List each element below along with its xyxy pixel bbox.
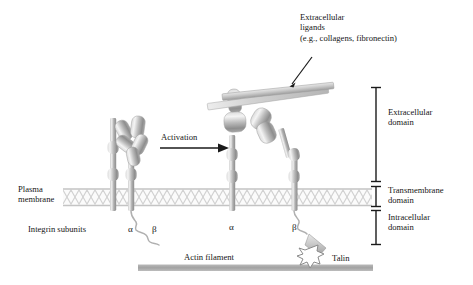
activation-arrow xyxy=(160,144,229,153)
active-integrin xyxy=(223,88,307,234)
talin xyxy=(297,234,326,268)
figure-canvas: Extracellular ligands (e.g., collagens, … xyxy=(0,0,473,285)
transmembrane-domain-label: Transmembrane domain xyxy=(388,185,444,206)
ligand-leader-line xyxy=(290,57,313,88)
plasma-membrane xyxy=(63,188,375,206)
extracellular-ligands-label: Extracellular ligands (e.g., collagens, … xyxy=(300,12,397,43)
plasma-membrane-label: Plasma membrane xyxy=(18,184,54,205)
activation-label: Activation xyxy=(161,132,197,142)
domain-brackets xyxy=(371,87,381,245)
talin-label: Talin xyxy=(332,253,350,263)
beta-subunit-label-inactive: β xyxy=(152,224,157,234)
extracellular-domain-label: Extracellular domain xyxy=(388,107,432,128)
intracellular-domain-label: Intracellular domain xyxy=(388,212,430,233)
alpha-subunit-label-inactive: α xyxy=(128,224,133,234)
beta-subunit-label-active: β xyxy=(292,222,297,232)
integrin-subunits-label: Integrin subunits xyxy=(28,224,86,234)
integrin-diagram-svg xyxy=(0,0,473,285)
extracellular-ligand-bars xyxy=(207,82,334,110)
actin-filament-label: Actin filament xyxy=(184,252,234,262)
actin-filament xyxy=(138,265,373,272)
alpha-subunit-label-active: α xyxy=(229,222,234,232)
